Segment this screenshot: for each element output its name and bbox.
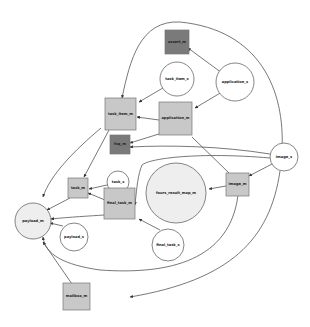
node-assert_m[interactable]: assert_m (165, 30, 189, 54)
edge-image_s-fsq_m (130, 146, 270, 154)
edge-image_m-fours_result_map_m (209, 186, 226, 189)
edge-task_item_m-task_m (84, 130, 109, 177)
svg-text:application_s: application_s (222, 80, 249, 84)
edge-image_s-image_m (249, 164, 272, 176)
node-fours_result_map_m[interactable]: fours_result_map_m (146, 163, 206, 223)
svg-text:task_m: task_m (71, 186, 85, 190)
edge-image_m-application_m (192, 137, 229, 173)
node-application_m[interactable]: application_m (159, 102, 192, 135)
node-final_task_m[interactable]: final_task_m (104, 188, 135, 219)
edge-application_m-fsq_m (130, 133, 162, 143)
edge-payload_s-payload_m (50, 223, 63, 226)
graph-canvas: assert_m task_item_s application_s task_… (0, 0, 310, 327)
edge-application_m-task_item_m (137, 117, 159, 120)
svg-text:task_item_m: task_item_m (108, 112, 133, 116)
edge-task_m-payload_m (47, 198, 70, 210)
edge-final_task_m-payload_m (51, 215, 104, 219)
node-image_s[interactable]: image_s (270, 143, 298, 171)
svg-text:task_s: task_s (112, 180, 125, 184)
svg-text:mailbox_m: mailbox_m (66, 294, 88, 298)
edge-application_s-application_m (195, 92, 222, 108)
svg-text:image_m: image_m (229, 182, 247, 186)
node-task_item_s[interactable]: task_item_s (160, 62, 194, 96)
svg-text:assert_m: assert_m (168, 40, 186, 44)
svg-text:fsq_m: fsq_m (114, 142, 126, 146)
edge-final_task_m-task_m (88, 193, 105, 200)
node-task_m[interactable]: task_m (68, 178, 88, 198)
edge-application_s-assert_m (188, 48, 222, 73)
svg-text:final_task_s: final_task_s (156, 243, 179, 247)
svg-text:payload_m: payload_m (22, 219, 44, 223)
node-application_s[interactable]: application_s (216, 63, 254, 101)
node-final_task_s[interactable]: final_task_s (152, 229, 184, 261)
svg-text:fours_result_map_m: fours_result_map_m (156, 191, 196, 195)
svg-text:final_task_m: final_task_m (107, 201, 132, 205)
edge-final_task_s-final_task_m (139, 219, 160, 230)
svg-text:task_item_s: task_item_s (165, 77, 189, 81)
svg-text:image_s: image_s (276, 155, 292, 159)
svg-text:payload_s: payload_s (64, 235, 84, 239)
node-mailbox_m[interactable]: mailbox_m (63, 283, 90, 310)
edge-application_s-task_item_m (122, 22, 282, 150)
node-payload_m[interactable]: payload_m (15, 203, 51, 239)
node-fsq_m[interactable]: fsq_m (110, 135, 130, 154)
svg-text:application_m: application_m (161, 116, 189, 120)
node-task_item_m[interactable]: task_item_m (105, 98, 136, 130)
node-image_m[interactable]: image_m (226, 173, 249, 196)
node-payload_s[interactable]: payload_s (60, 223, 88, 251)
